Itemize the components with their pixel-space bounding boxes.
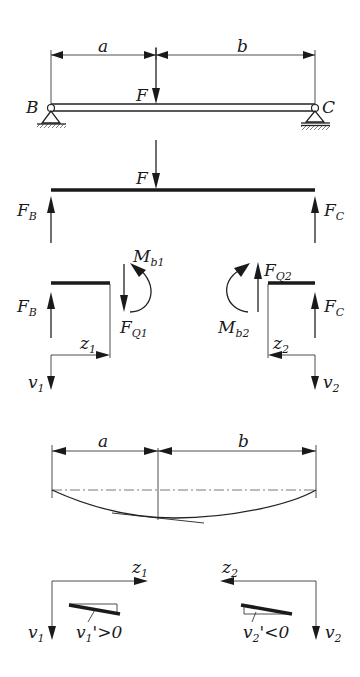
roller-support-c: C xyxy=(301,97,335,130)
panel-free-body: F FB FC xyxy=(16,140,345,243)
svg-text:FQ2: FQ2 xyxy=(263,260,292,283)
svg-text:FC: FC xyxy=(323,296,345,319)
svg-text:Mb1: Mb1 xyxy=(132,246,164,269)
svg-text:z2: z2 xyxy=(221,557,238,580)
load-arrow-f xyxy=(152,173,160,189)
panel-slope-right: z2 v2 v2'<0 xyxy=(220,557,342,645)
svg-text:FB: FB xyxy=(16,200,37,223)
svg-text:FQ1: FQ1 xyxy=(119,317,148,340)
reaction-arrow-fb: FB xyxy=(16,196,55,243)
beam xyxy=(51,104,315,111)
dimension-b: b xyxy=(156,36,315,59)
svg-text:z1: z1 xyxy=(79,333,96,356)
svg-text:v1: v1 xyxy=(28,372,45,395)
svg-text:Mb2: Mb2 xyxy=(217,317,249,340)
panel-section-left: FB FQ1 Mb1 z1 v1 xyxy=(16,246,164,395)
pin-support-b: B xyxy=(25,97,66,128)
svg-text:FB: FB xyxy=(16,296,37,319)
svg-text:z1: z1 xyxy=(131,557,148,580)
svg-text:v1'>0: v1'>0 xyxy=(76,622,123,645)
panel-section-right: FQ2 Mb2 FC z2 v2 xyxy=(217,260,345,395)
label-b: b xyxy=(237,36,248,56)
svg-text:v2: v2 xyxy=(323,372,340,395)
svg-text:FC: FC xyxy=(323,200,345,223)
label-f: F xyxy=(135,168,149,188)
svg-text:v1: v1 xyxy=(28,622,45,645)
panel-beam: a b F B xyxy=(25,36,335,130)
reaction-arrow-fc: FC xyxy=(311,196,345,243)
label-b: b xyxy=(238,431,249,451)
label-a: a xyxy=(98,36,108,56)
svg-text:v2: v2 xyxy=(325,622,342,645)
beam-diagram: a b F B xyxy=(0,0,360,677)
label-f: F xyxy=(135,85,149,105)
label-c-support: C xyxy=(322,97,335,117)
svg-text:z2: z2 xyxy=(272,333,289,356)
label-b-support: B xyxy=(25,97,39,117)
svg-text:v2'<0: v2'<0 xyxy=(243,622,290,645)
panel-slope-left: z1 v1 v1'>0 xyxy=(28,557,148,645)
dimension-a: a xyxy=(51,36,156,59)
deflection-curve xyxy=(52,490,316,518)
panel-deflection: a b xyxy=(52,431,316,523)
label-a: a xyxy=(98,431,108,451)
